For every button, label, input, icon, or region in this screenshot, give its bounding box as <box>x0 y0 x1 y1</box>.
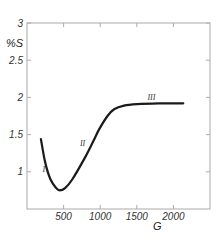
svg-text:1000: 1000 <box>89 211 112 222</box>
chart: 50010001500200011.522.53 IIIIII G %S <box>0 0 224 240</box>
svg-text:1: 1 <box>17 166 23 177</box>
y-axis-title: %S <box>6 37 24 49</box>
svg-text:III: III <box>146 93 155 102</box>
axis-ticks <box>27 23 210 209</box>
tick-labels: 50010001500200011.522.53 <box>8 18 185 223</box>
svg-text:500: 500 <box>55 211 72 222</box>
svg-text:2.5: 2.5 <box>8 55 23 66</box>
svg-text:I: I <box>42 165 46 174</box>
region-labels: IIIIII <box>42 93 156 173</box>
svg-text:1500: 1500 <box>126 211 149 222</box>
svg-text:2000: 2000 <box>161 211 185 222</box>
svg-text:II: II <box>79 139 86 148</box>
svg-text:3: 3 <box>17 18 23 29</box>
x-axis-title: G <box>153 220 162 232</box>
data-curve <box>41 103 183 190</box>
svg-text:1.5: 1.5 <box>9 129 23 140</box>
svg-text:2: 2 <box>16 92 23 103</box>
plot-frame <box>27 23 210 209</box>
